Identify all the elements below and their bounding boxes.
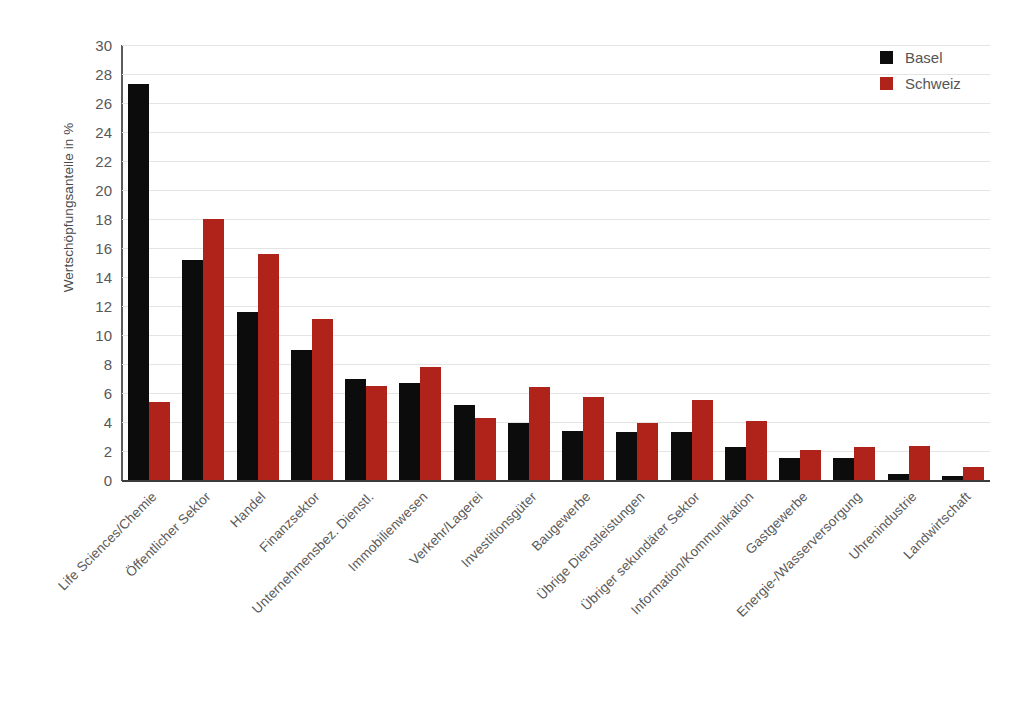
bar-group <box>827 45 881 480</box>
bar-groups <box>122 45 990 480</box>
bar-schweiz[interactable] <box>854 447 875 480</box>
y-tick-label: 20 <box>72 182 112 199</box>
legend-label: Schweiz <box>905 75 961 92</box>
y-tick-label: 4 <box>72 414 112 431</box>
legend-swatch-icon <box>880 51 893 64</box>
x-label-slot: Life Sciences/Chemie <box>122 481 176 681</box>
bar-schweiz[interactable] <box>366 386 387 480</box>
bar-group <box>339 45 393 480</box>
bar-group <box>176 45 230 480</box>
plot-area <box>122 45 990 480</box>
legend-item[interactable]: Schweiz <box>880 70 961 96</box>
bar-basel[interactable] <box>237 312 258 480</box>
bar-basel[interactable] <box>291 350 312 481</box>
bar-basel[interactable] <box>779 458 800 480</box>
bar-schweiz[interactable] <box>746 421 767 480</box>
bar-basel[interactable] <box>454 405 475 480</box>
bar-schweiz[interactable] <box>420 367 441 480</box>
bar-basel[interactable] <box>888 474 909 480</box>
y-tick-label: 16 <box>72 240 112 257</box>
bar-basel[interactable] <box>562 431 583 480</box>
x-label-slot: Uhrenindustrie <box>882 481 936 681</box>
bar-basel[interactable] <box>616 432 637 480</box>
bar-group <box>936 45 990 480</box>
bar-basel[interactable] <box>182 260 203 480</box>
legend-swatch-icon <box>880 77 893 90</box>
bar-schweiz[interactable] <box>963 467 984 480</box>
bar-schweiz[interactable] <box>692 400 713 480</box>
bar-schweiz[interactable] <box>529 387 550 480</box>
y-tick-label: 8 <box>72 356 112 373</box>
x-axis-label: Handel <box>227 489 268 530</box>
x-label-slot: Immobilienwesen <box>393 481 447 681</box>
bar-schweiz[interactable] <box>583 397 604 480</box>
bar-schweiz[interactable] <box>637 423 658 480</box>
y-tick-label: 0 <box>72 472 112 489</box>
bar-schweiz[interactable] <box>203 219 224 480</box>
bar-basel[interactable] <box>508 423 529 480</box>
x-label-slot: Verkehr/Lagerei <box>448 481 502 681</box>
x-axis-label: Life Sciences/Chemie <box>55 489 159 593</box>
bar-group <box>285 45 339 480</box>
bar-group <box>719 45 773 480</box>
bar-group <box>448 45 502 480</box>
bar-group <box>773 45 827 480</box>
legend: BaselSchweiz <box>880 44 961 96</box>
bar-group <box>665 45 719 480</box>
x-label-slot: Unternehmensbez. Dienstl. <box>339 481 393 681</box>
y-tick-label: 28 <box>72 66 112 83</box>
y-tick-label: 2 <box>72 443 112 460</box>
bar-group <box>122 45 176 480</box>
bar-basel[interactable] <box>399 383 420 480</box>
bar-schweiz[interactable] <box>475 418 496 480</box>
y-tick-label: 12 <box>72 298 112 315</box>
y-tick-label: 22 <box>72 153 112 170</box>
bar-group <box>393 45 447 480</box>
bar-schweiz[interactable] <box>312 319 333 480</box>
legend-item[interactable]: Basel <box>880 44 961 70</box>
x-label-slot: Landwirtschaft <box>936 481 990 681</box>
y-tick-label: 6 <box>72 385 112 402</box>
y-tick-label: 30 <box>72 37 112 54</box>
bar-group <box>556 45 610 480</box>
x-label-slot: Öffentlicher Sektor <box>176 481 230 681</box>
bar-basel[interactable] <box>345 379 366 481</box>
y-tick-label: 10 <box>72 327 112 344</box>
bar-basel[interactable] <box>725 447 746 480</box>
y-axis-tick-labels: 302826242220181614121086420 <box>62 45 112 480</box>
bar-group <box>610 45 664 480</box>
x-label-slot: Energie-/Wasserversorgung <box>827 481 881 681</box>
bar-schweiz[interactable] <box>800 450 821 480</box>
y-tick-label: 18 <box>72 211 112 228</box>
legend-label: Basel <box>905 49 943 66</box>
bar-schweiz[interactable] <box>909 446 930 480</box>
bar-group <box>502 45 556 480</box>
bar-basel[interactable] <box>128 84 149 480</box>
bar-basel[interactable] <box>942 476 963 480</box>
y-tick-label: 24 <box>72 124 112 141</box>
bar-basel[interactable] <box>671 432 692 480</box>
bar-schweiz[interactable] <box>258 254 279 480</box>
bar-group <box>882 45 936 480</box>
bar-basel[interactable] <box>833 458 854 480</box>
bar-schweiz[interactable] <box>149 402 170 480</box>
bar-group <box>231 45 285 480</box>
x-axis-category-labels: Life Sciences/ChemieÖffentlicher SektorH… <box>122 481 990 681</box>
y-tick-label: 14 <box>72 269 112 286</box>
bar-chart: Wertschöpfungsanteile in % 3028262422201… <box>0 0 1020 702</box>
y-tick-label: 26 <box>72 95 112 112</box>
